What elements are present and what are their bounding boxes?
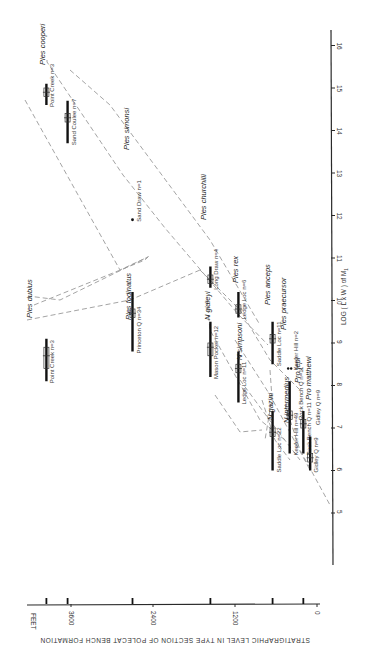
- sample-sand-draw: Sand Draw n=1: [131, 180, 141, 222]
- species-label-ples-cooperi: Ples cooperi: [38, 23, 47, 65]
- species-label-n-gazini: N gazini: [266, 393, 275, 420]
- sample-label: Ledge Loc n=11: [241, 361, 247, 404]
- log-tick-label: 7: [336, 425, 343, 429]
- feet-axis-title: STRATIGRAPHIC LEVEL IN TYPE SECTION OF P…: [40, 637, 310, 644]
- species-label-ples-simonsi: Ples simonsi: [122, 108, 131, 150]
- sample-ranges: Point Creek n=3Sand Coulee n=7Point Cree…: [43, 63, 319, 472]
- log-axis: 5678910111213141516 LOG ( L x W ) of M1: [331, 30, 349, 565]
- sample-label: Mason Pocket n=12: [213, 325, 219, 379]
- species-label-n-gidleyi: N gidleyi: [203, 291, 212, 320]
- species-label-ples-anceps: Ples anceps: [263, 264, 272, 305]
- species-label-n-simpsoni: N simpsoni: [235, 323, 244, 360]
- sample-sand-coulee: Sand Coulee n=7: [64, 98, 77, 145]
- log-tick-label: 14: [336, 128, 343, 136]
- sample-label: Sand Coulee n=7: [71, 98, 77, 145]
- log-tick-label: 6: [336, 468, 343, 472]
- sample-label: Princeton Q n=34: [136, 306, 142, 354]
- sample-label: Point Creek n=3: [49, 63, 55, 107]
- log-tick-label: 16: [336, 43, 343, 51]
- sample-long-draw: Long Draw n=4: [207, 248, 220, 290]
- sample-label: Long Draw n=4: [213, 248, 219, 290]
- log-tick-label: 11: [336, 255, 343, 262]
- species-label-ples-churchilli: Ples churchilli: [199, 174, 208, 220]
- species-label-pro-matthewi: Pro matthewi: [304, 356, 313, 400]
- sample-label: Saddle Loc n=22: [276, 427, 282, 473]
- species-label-ples-rex: Ples rex: [231, 256, 240, 283]
- feet-tick-label: 2400: [150, 611, 157, 626]
- log-tick-label: 15: [336, 85, 343, 93]
- sample-mason-pocket: Mason Pocket n=12: [207, 322, 220, 379]
- specimen-dot: [287, 367, 289, 369]
- sample-point-creek: Point Creek n=3: [43, 339, 56, 384]
- feet-tick-label: 1200: [232, 611, 239, 626]
- sample-label: Gidley Q n=9: [313, 437, 319, 473]
- species-label-ples-dubius: Ples dubius: [25, 279, 34, 318]
- species-label-n-intermedius: N intermedius: [282, 376, 291, 423]
- log-tick-label: 12: [336, 213, 343, 221]
- sample-label: Sand Draw n=1: [136, 180, 142, 222]
- log-tick-label: 9: [336, 340, 343, 344]
- feet-axis-ticks: 0120024003600: [68, 604, 321, 626]
- species-label-ples-praecursor: Ples praecursor: [279, 277, 288, 330]
- locality-label-gidley-q: Gidley Q n=9: [315, 389, 321, 425]
- feet-axis-unit-label: FEET: [30, 613, 37, 630]
- sample-label: Ledge Loc n=6: [241, 279, 247, 320]
- feet-tick-label: 3600: [68, 611, 75, 626]
- stratigraphic-chart: FEET 0120024003600 STRATIGRAPHIC LEVEL I…: [0, 0, 370, 671]
- feet-axis: FEET 0120024003600 STRATIGRAPHIC LEVEL I…: [27, 598, 321, 644]
- log-tick-label: 13: [336, 170, 343, 178]
- log-tick-label: 8: [336, 383, 343, 387]
- single-specimen-dot: [131, 218, 134, 221]
- locality-label-rock-bench-q: Rock Bench Q n=11: [298, 366, 304, 420]
- locality-level-ticks: [46, 598, 303, 604]
- sample-label: Point Creek n=3: [49, 339, 55, 383]
- sample-point-creek: Point Creek n=3: [43, 63, 56, 107]
- log-tick-label: 5: [336, 510, 343, 514]
- log-axis-title: LOG ( L x W ) of M1: [340, 268, 349, 325]
- feet-tick-label: 0: [314, 611, 321, 615]
- species-label-ples-fodinatus: Ples fodinatus: [124, 273, 133, 320]
